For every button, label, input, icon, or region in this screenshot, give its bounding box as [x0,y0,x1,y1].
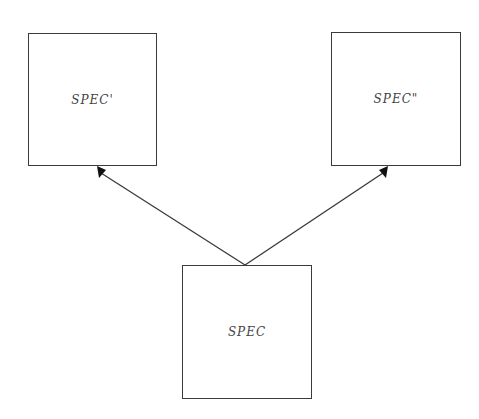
diagram-canvas: SPEC' SPEC" SPEC [0,0,479,419]
node-spec: SPEC [182,265,312,399]
node-spec-double-prime: SPEC" [331,32,461,166]
arrowhead-icon [379,166,388,178]
node-label: SPEC' [71,93,114,107]
node-label: SPEC [228,325,266,339]
edge-spec-to-spec-prime [97,166,245,265]
arrowhead-icon [97,166,106,178]
edge-spec-to-spec-dprime [245,166,388,265]
node-spec-prime: SPEC' [28,33,157,166]
node-label: SPEC" [374,92,419,106]
